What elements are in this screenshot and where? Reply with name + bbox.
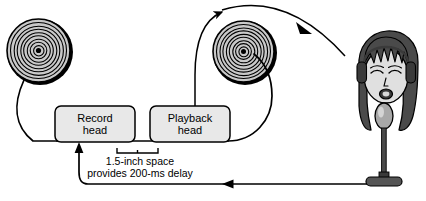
- tape-reel-right: [213, 21, 277, 85]
- playback-head-box[interactable]: [150, 106, 230, 142]
- return-line-arrow-left-icon: [222, 179, 234, 188]
- return-line-arrow-up-icon: [75, 142, 84, 153]
- microphone-highlight: [378, 107, 384, 118]
- figure-canvas: Record head Playback head 1.5-inch space…: [0, 0, 426, 201]
- headphone-cup-right: [406, 62, 416, 83]
- caption-line-1: 1.5-inch space: [0, 155, 280, 168]
- mouth-inner: [383, 92, 390, 97]
- microphone-on-stand: [366, 103, 402, 186]
- microphone-head: [375, 103, 393, 129]
- microphone-stand-base: [366, 177, 402, 186]
- tape-reel-left: [7, 19, 73, 85]
- tape-path-left: [17, 80, 57, 141]
- microphone-stand-pole: [382, 128, 387, 175]
- headphone-cup-left: [357, 62, 367, 83]
- measurement-bracket: [117, 148, 158, 153]
- record-head-box[interactable]: [55, 106, 135, 142]
- caption-line-2: provides 200-ms delay: [0, 167, 280, 180]
